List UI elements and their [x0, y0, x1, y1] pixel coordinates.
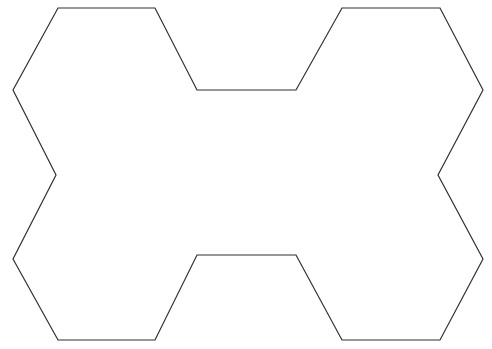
polyhex-diagram: Polyhex Outline Outline drawing of an H-… [0, 0, 492, 349]
figure-canvas: Polyhex Outline Outline drawing of an H-… [0, 0, 492, 349]
